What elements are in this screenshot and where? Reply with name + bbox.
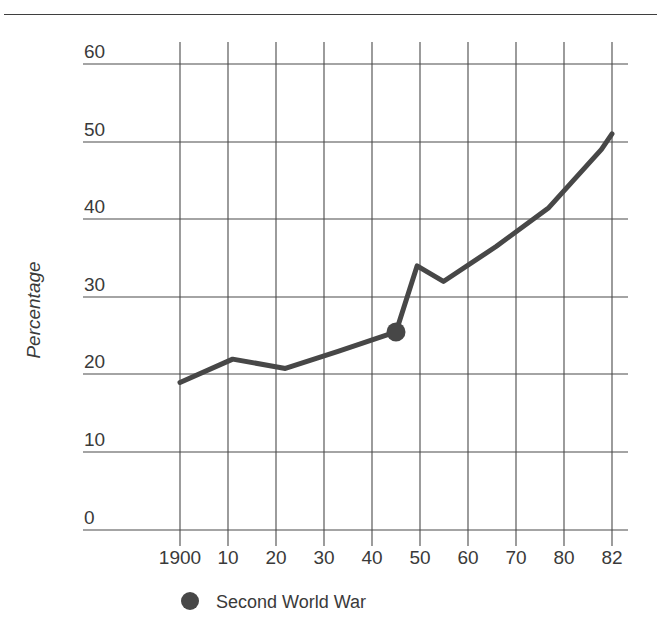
- legend-label-second-world-war: Second World War: [216, 592, 366, 612]
- x-tick-label-1900: 1900: [159, 547, 201, 568]
- y-tick-label-30: 30: [84, 274, 105, 295]
- data-line-percentage: [180, 134, 612, 383]
- line-chart-svg: 60 50 40 30 20 10 0 1900 10 20 30 40 50 …: [0, 0, 661, 632]
- x-tick-label-82: 82: [601, 547, 622, 568]
- second-world-war-marker-dot: [387, 322, 406, 341]
- y-axis-title: Percentage: [23, 261, 44, 358]
- legend-marker-icon: [181, 592, 199, 610]
- y-tick-label-40: 40: [84, 196, 105, 217]
- chart-figure: 60 50 40 30 20 10 0 1900 10 20 30 40 50 …: [0, 0, 661, 632]
- y-tick-label-20: 20: [84, 351, 105, 372]
- x-tick-label-20: 20: [265, 547, 286, 568]
- x-tick-label-70: 70: [505, 547, 526, 568]
- x-tick-label-40: 40: [361, 547, 382, 568]
- x-tick-label-10: 10: [217, 547, 238, 568]
- x-tick-label-30: 30: [313, 547, 334, 568]
- horizontal-gridlines: [83, 64, 628, 530]
- vertical-gridlines: [180, 42, 612, 546]
- x-tick-label-60: 60: [457, 547, 478, 568]
- y-tick-label-0: 0: [84, 507, 95, 528]
- y-tick-label-10: 10: [84, 429, 105, 450]
- y-tick-label-60: 60: [84, 41, 105, 62]
- y-tick-label-50: 50: [84, 119, 105, 140]
- x-tick-label-50: 50: [409, 547, 430, 568]
- x-tick-label-80: 80: [553, 547, 574, 568]
